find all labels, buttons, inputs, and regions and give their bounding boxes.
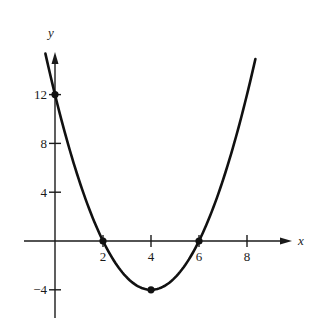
y-tick-label: 4 <box>41 185 48 200</box>
y-ticks: 1284−4 <box>33 87 61 297</box>
y-tick-label: 8 <box>41 136 48 151</box>
parabola-chart: 2468 1284−4 x y <box>0 0 324 327</box>
x-axis-label: x <box>297 233 304 248</box>
y-tick-label: −4 <box>33 282 47 297</box>
point-marker <box>147 286 154 293</box>
marked-points <box>51 91 202 293</box>
x-tick-label: 4 <box>148 249 155 264</box>
x-ticks: 2468 <box>100 235 251 264</box>
x-tick-label: 6 <box>196 249 203 264</box>
y-tick-label: 12 <box>34 87 47 102</box>
y-axis-label: y <box>46 25 54 40</box>
x-axis <box>24 238 292 245</box>
point-marker <box>51 91 58 98</box>
point-marker <box>195 237 202 244</box>
x-tick-label: 2 <box>100 249 107 264</box>
x-tick-label: 8 <box>244 249 251 264</box>
x-axis-arrow-icon <box>280 238 292 245</box>
y-axis-arrow-icon <box>52 52 59 64</box>
point-marker <box>99 237 106 244</box>
